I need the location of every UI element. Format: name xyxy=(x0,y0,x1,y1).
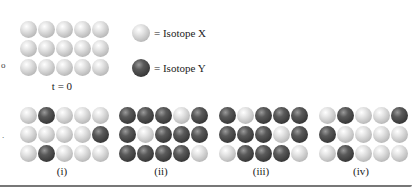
isotope-x-atom-icon xyxy=(355,107,372,124)
isotope-y-atom-icon xyxy=(237,145,254,162)
isotope-y-atom-icon xyxy=(155,126,172,143)
isotope-x-atom-icon xyxy=(20,145,37,162)
legend-isotope-y: = Isotope Y xyxy=(132,59,206,77)
isotope-x-atom-icon xyxy=(391,126,408,143)
isotope-x-atom-icon xyxy=(74,126,91,143)
isotope-y-atom-icon xyxy=(137,107,154,124)
isotope-y-atom-icon xyxy=(137,145,154,162)
isotope-y-atom-icon xyxy=(237,126,254,143)
isotope-x-atom-icon xyxy=(38,21,55,38)
isotope-y-atom-icon xyxy=(255,126,272,143)
isotope-x-atom-icon xyxy=(20,40,37,57)
legend-label-isotope-y: = Isotope Y xyxy=(154,62,206,74)
isotope-x-atom-icon xyxy=(191,145,208,162)
isotope-x-atom-icon xyxy=(219,145,236,162)
bottom-border-line xyxy=(0,185,412,187)
isotope-y-atom-icon xyxy=(391,107,408,124)
isotope-x-atom-icon xyxy=(74,21,91,38)
isotope-x-atom-icon xyxy=(56,59,73,76)
isotope-y-atom-icon xyxy=(255,145,272,162)
isotope-x-atom-icon xyxy=(92,145,109,162)
isotope-y-atom-icon xyxy=(173,126,190,143)
legend-isotope-x: = Isotope X xyxy=(132,24,206,42)
isotope-y-atom-icon xyxy=(337,107,354,124)
legend-label-isotope-x: = Isotope X xyxy=(154,27,206,39)
isotope-y-atom-icon xyxy=(38,145,55,162)
isotope-y-atom-icon xyxy=(191,126,208,143)
initial-state-grid xyxy=(20,21,109,76)
isotope-y-atom-icon xyxy=(219,107,236,124)
isotope-x-atom-icon xyxy=(56,145,73,162)
isotope-x-atom-icon xyxy=(38,126,55,143)
isotope-x-atom-icon xyxy=(373,126,390,143)
isotope-y-atom-icon xyxy=(119,126,136,143)
isotope-x-atom-icon xyxy=(173,107,190,124)
isotope-y-atom-icon xyxy=(219,126,236,143)
isotope-y-atom-icon xyxy=(273,145,290,162)
isotope-y-atom-icon xyxy=(255,107,272,124)
isotope-y-atom-icon xyxy=(319,126,336,143)
isotope-x-atom-icon xyxy=(56,107,73,124)
isotope-y-atom-icon xyxy=(173,145,190,162)
isotope-x-atom-icon xyxy=(56,21,73,38)
isotope-x-atom-icon xyxy=(373,145,390,162)
isotope-x-atom-icon xyxy=(291,145,308,162)
isotope-x-atom-icon xyxy=(355,126,372,143)
isotope-x-atom-icon xyxy=(355,145,372,162)
isotope-y-atom-icon xyxy=(155,107,172,124)
isotope-x-atom-icon xyxy=(74,145,91,162)
isotope-x-atom-icon xyxy=(92,40,109,57)
isotope-y-atom-icon xyxy=(92,126,109,143)
isotope-x-atom-icon xyxy=(319,107,336,124)
option-iv-caption: (iv) xyxy=(331,165,391,177)
isotope-x-atom-icon xyxy=(20,107,37,124)
isotope-x-atom-icon xyxy=(391,145,408,162)
isotope-x-atom-icon xyxy=(319,145,336,162)
isotope-y-atom-icon xyxy=(291,107,308,124)
isotope-x-atom-icon xyxy=(373,107,390,124)
isotope-y-atom-icon xyxy=(38,107,55,124)
option-ii-caption: (ii) xyxy=(131,165,191,177)
option-iii-grid xyxy=(219,107,308,162)
isotope-x-atom-icon xyxy=(56,126,73,143)
isotope-x-atom-icon xyxy=(20,59,37,76)
initial-state-caption: t = 0 xyxy=(32,80,92,92)
isotope-y-atom-icon xyxy=(119,145,136,162)
isotope-x-atom-icon xyxy=(74,40,91,57)
isotope-x-atom-icon xyxy=(20,126,37,143)
left-margin-mark-top: o xyxy=(1,60,6,70)
isotope-y-atom-icon xyxy=(291,126,308,143)
isotope-x-atom-icon xyxy=(56,40,73,57)
isotope-y-atom-icon xyxy=(155,145,172,162)
isotope-y-atom-icon xyxy=(273,107,290,124)
isotope-y-atom-icon xyxy=(119,107,136,124)
isotope-y-atom-icon xyxy=(191,107,208,124)
isotope-x-atom-icon xyxy=(92,21,109,38)
isotope-x-atom-icon xyxy=(20,21,37,38)
option-i-grid xyxy=(20,107,109,162)
isotope-x-atom-icon xyxy=(74,59,91,76)
isotope-x-ball-icon xyxy=(132,24,150,42)
isotope-x-atom-icon xyxy=(92,59,109,76)
isotope-x-atom-icon xyxy=(273,126,290,143)
isotope-x-atom-icon xyxy=(38,40,55,57)
isotope-y-ball-icon xyxy=(132,59,150,77)
option-iv-grid xyxy=(319,107,408,162)
isotope-x-atom-icon xyxy=(38,59,55,76)
isotope-x-atom-icon xyxy=(337,126,354,143)
option-ii-grid xyxy=(119,107,208,162)
isotope-y-atom-icon xyxy=(337,145,354,162)
isotope-x-atom-icon xyxy=(237,107,254,124)
left-margin-mark-bottom: . xyxy=(2,130,4,140)
option-i-caption: (i) xyxy=(32,165,92,177)
isotope-x-atom-icon xyxy=(92,107,109,124)
isotope-x-atom-icon xyxy=(137,126,154,143)
option-iii-caption: (iii) xyxy=(231,165,291,177)
isotope-x-atom-icon xyxy=(74,107,91,124)
